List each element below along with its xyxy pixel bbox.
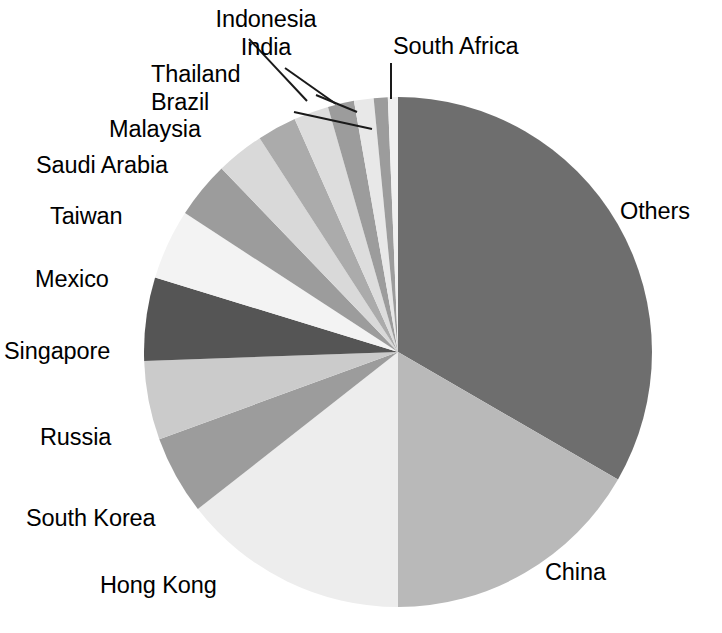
slice-label-thailand: Thailand <box>151 61 309 88</box>
slice-label-others: Others <box>620 198 690 225</box>
slice-label-brazil: Brazil <box>151 89 288 116</box>
pie-chart-canvas <box>0 0 722 633</box>
pie-slice-group <box>144 97 652 607</box>
slice-label-hong-kong: Hong Kong <box>100 572 280 599</box>
slice-label-south-korea: South Korea <box>26 505 206 532</box>
slice-label-south-africa: South Africa <box>393 33 519 60</box>
pie-chart-figure: Indonesia India South Africa Thailand Br… <box>0 0 722 633</box>
slice-label-saudi-arabia: Saudi Arabia <box>36 152 208 179</box>
slice-label-taiwan: Taiwan <box>50 203 181 230</box>
slice-label-indonesia: Indonesia <box>196 6 336 33</box>
slice-label-malaysia: Malaysia <box>109 116 289 143</box>
slice-label-india: India <box>206 34 326 61</box>
slice-label-russia: Russia <box>40 424 172 451</box>
slice-label-mexico: Mexico <box>35 266 168 293</box>
slice-label-china: China <box>545 559 606 586</box>
slice-label-singapore: Singapore <box>4 338 144 365</box>
